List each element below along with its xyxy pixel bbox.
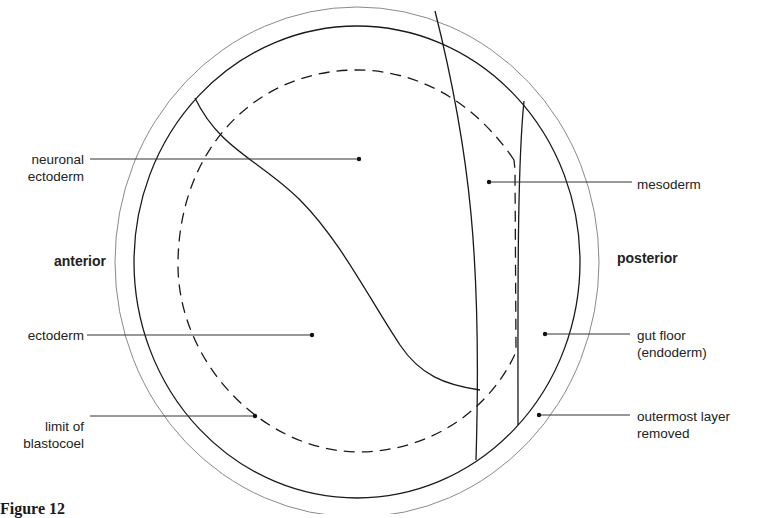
label-outermost-layer: outermost layer removed <box>637 408 730 442</box>
mesoderm-boundary-left <box>435 11 477 460</box>
label-line: ectoderm <box>0 168 84 185</box>
label-line: removed <box>637 425 730 442</box>
label-line: outermost layer <box>637 408 730 425</box>
outermost-layer-outline <box>115 7 599 514</box>
label-anterior: anterior <box>0 253 106 270</box>
neuronal-ectoderm-boundary <box>195 98 480 390</box>
label-neuronal-ectoderm: neuronal ectoderm <box>0 151 84 185</box>
label-line: limit of <box>0 418 84 435</box>
embryo-outline <box>134 26 580 498</box>
label-mesoderm: mesoderm <box>637 176 701 193</box>
label-line: blastocoel <box>0 435 84 452</box>
label-ectoderm: ectoderm <box>0 327 84 344</box>
label-limit-of-blastocoel: limit of blastocoel <box>0 418 84 452</box>
label-line: (endoderm) <box>637 344 707 361</box>
label-line: gut floor <box>637 327 707 344</box>
endoderm-boundary <box>518 101 524 425</box>
label-gut-floor: gut floor (endoderm) <box>637 327 707 361</box>
label-line: neuronal <box>0 151 84 168</box>
figure-caption: Figure 12 <box>0 500 65 518</box>
label-posterior: posterior <box>617 250 678 267</box>
